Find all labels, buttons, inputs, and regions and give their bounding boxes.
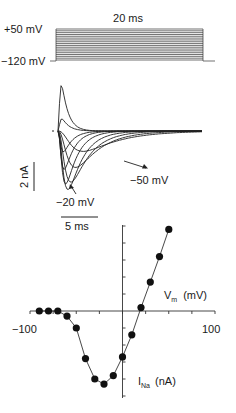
x-tick-label-max: 100 [202,323,220,335]
x-axis-label: Vm(mV) [164,289,207,303]
iv-data-point [165,226,172,233]
iv-data-point [147,279,154,286]
iv-data-point [45,307,52,314]
protocol-holding-right [203,29,215,61]
iv-data-point [63,313,70,320]
time-scale-label: 5 ms [65,220,89,232]
current-trace [58,86,202,131]
iv-curve-line [39,229,169,384]
arrowhead-minus50-icon [142,164,148,169]
protocol-step-lines [50,29,215,61]
iv-data-point [156,253,163,260]
iv-data-point [100,381,107,388]
protocol-bottom-label: −120 mV [1,55,46,67]
current-scale-label: 2 nA [18,165,30,188]
x-axis-label-sub: m [171,296,177,303]
iv-data-point [73,324,80,331]
iv-data-point [91,375,98,382]
annotation-minus50: −50 mV [130,174,169,186]
x-tick-label-min: −100 [12,323,37,335]
iv-data-point [137,304,144,311]
current-trace [58,131,202,167]
figure: 20 ms +50 mV −120 mV −50 mV −20 mV 2 nA … [0,0,236,413]
iv-data-point [54,307,61,314]
annotation-minus20: −20 mV [56,196,95,208]
current-trace [58,119,202,131]
iv-data-points [36,226,173,388]
protocol-top-label: +50 mV [4,23,43,35]
iv-data-point [128,331,135,338]
iv-data-point [119,353,126,360]
y-axis-label: INa(nA) [138,375,176,389]
protocol-holding-left [50,29,56,61]
iv-data-point [110,372,117,379]
protocol-duration-label: 20 ms [113,12,143,24]
iv-data-point [36,307,43,314]
iv-data-point [82,355,89,362]
y-axis-label-sub: Na [141,382,150,389]
x-axis-label-unit: (mV) [183,289,207,301]
iv-plot-panel: −100 100 Vm(mV) INa(nA) [12,225,220,398]
protocol-panel: 20 ms +50 mV −120 mV [1,12,215,67]
current-traces-panel: −50 mV −20 mV 2 nA 5 ms [18,86,202,232]
y-axis-label-unit: (nA) [155,375,176,387]
